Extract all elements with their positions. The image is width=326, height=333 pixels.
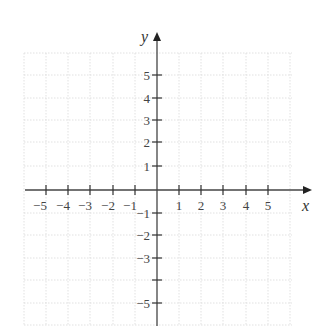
x-axis-label: x: [301, 197, 309, 214]
x-tick-label: 2: [198, 198, 205, 213]
y-tick-label: −2: [136, 228, 150, 243]
x-tick-label: 5: [265, 198, 272, 213]
y-tick-label: −3: [136, 251, 150, 266]
x-tick-label: −5: [33, 198, 47, 213]
y-tick-label: −1: [136, 206, 150, 221]
y-axis-label: y: [139, 28, 149, 46]
y-axis-arrow-icon: [153, 32, 161, 41]
x-tick-labels: −5 −4 −3 −2 −1 1 2 3 4 5: [33, 198, 271, 213]
x-tick-label: −3: [78, 198, 92, 213]
y-tick-label: 3: [144, 113, 151, 128]
x-tick-label: 3: [220, 198, 227, 213]
coordinate-plane: y x −5 −4 −3 −2 −1 1 2 3 4 5 5 4 3 2 1 −…: [0, 0, 326, 333]
y-tick-label: 1: [144, 159, 151, 174]
y-tick-label: −5: [136, 296, 150, 311]
x-tick-label: −4: [56, 198, 70, 213]
x-tick-label: 1: [176, 198, 183, 213]
y-tick-label: 4: [144, 91, 151, 106]
x-axis-arrow-icon: [303, 186, 312, 194]
y-tick-label: 2: [144, 135, 151, 150]
x-tick-label: −2: [101, 198, 115, 213]
y-tick-label: 5: [144, 68, 151, 83]
x-tick-label: 4: [243, 198, 250, 213]
x-tick-label: −1: [123, 198, 137, 213]
